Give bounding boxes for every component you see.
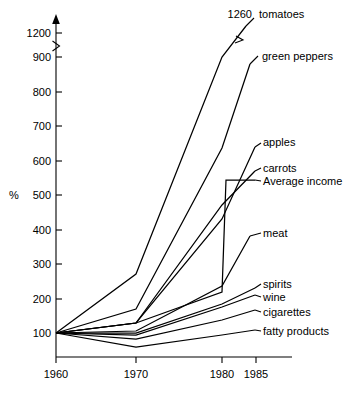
series-label-carrots: carrots [263,162,297,174]
series-label-apples: apples [263,136,296,148]
y-tick-label-700: 700 [33,120,51,132]
leader-line-wine [255,295,261,297]
y-tick-label-500: 500 [33,189,51,201]
line-chart-figure: 1200 900 800 700 600 500 400 300 200 100… [0,0,350,393]
y-axis-title: % [9,189,19,201]
series-label-cigarettes: cigarettes [263,306,311,318]
y-tick-labels: 1200 900 800 700 600 500 400 300 200 100 [27,27,51,339]
series-label-wine: wine [262,291,286,303]
leader-line-spirits [255,284,261,288]
x-tick-label-1985: 1985 [244,368,268,380]
series-label-average-income: Average income [263,175,342,187]
series-line-average-income [56,180,255,333]
y-tick-label-200: 200 [33,293,51,305]
series-label-spirits: spirits [263,278,292,290]
series-labels-group: 1260 tomatoes green peppers apples carro… [228,8,343,337]
chart-canvas: 1200 900 800 700 600 500 400 300 200 100… [0,0,350,393]
leader-line-green-peppers [250,56,258,64]
series-label-fatty-products: fatty products [263,325,330,337]
series-line-apples [56,147,255,333]
y-axis-arrowhead [52,14,60,24]
series-line-tomatoes [56,26,246,333]
x-tick-label-1970: 1970 [124,368,148,380]
leader-line-fatty-products [255,330,261,331]
y-tick-label-300: 300 [33,258,51,270]
series-value-tomatoes: 1260 [228,8,252,20]
series-line-meat [56,236,250,333]
series-lines-group [56,26,255,347]
x-tick-label-1980: 1980 [210,368,234,380]
leader-line-carrots [255,168,261,171]
series-label-tomatoes: tomatoes [259,8,305,20]
y-tick-label-900: 900 [33,51,51,63]
leader-line-average-income [255,180,261,181]
y-tick-label-1200: 1200 [27,27,51,39]
x-tick-label-1960: 1960 [44,368,68,380]
leader-line-apples [255,143,261,147]
leader-line-meat [250,233,261,236]
series-label-green-peppers: green peppers [262,50,333,62]
y-tick-label-600: 600 [33,155,51,167]
leader-line-cigarettes [255,310,261,312]
y-tick-label-100: 100 [33,327,51,339]
y-tick-label-400: 400 [33,224,51,236]
series-label-meat: meat [263,227,287,239]
y-tick-label-800: 800 [33,86,51,98]
series-leader-lines-group [246,18,261,331]
x-tick-labels: 1960 1970 1980 1985 [44,368,268,380]
